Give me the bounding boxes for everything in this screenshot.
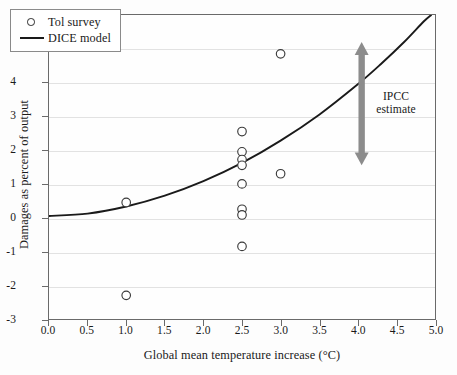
ipcc-estimate-label: IPCC estimate xyxy=(376,90,415,116)
y-axis-tick xyxy=(42,150,48,151)
open-circle-icon xyxy=(18,15,48,29)
y-axis-tick xyxy=(42,286,48,287)
y-axis-tick-label: 0 xyxy=(10,212,16,224)
data-point xyxy=(238,161,247,170)
y-axis-tick-label: 4 xyxy=(10,76,16,88)
data-point xyxy=(122,198,131,207)
ipcc-label-line1: IPCC xyxy=(376,90,415,103)
arrow-head-down-icon xyxy=(355,152,369,165)
data-point xyxy=(238,127,247,136)
legend: Tol survey DICE model xyxy=(10,9,121,52)
x-axis-tick-label: 3.0 xyxy=(273,325,288,337)
x-axis-label: Global mean temperature increase (°C) xyxy=(48,348,436,363)
data-point xyxy=(276,50,285,59)
y-axis-label: Damages as percent of output xyxy=(17,59,32,291)
data-point xyxy=(238,211,247,220)
x-axis-tick-label: 4.5 xyxy=(390,325,405,337)
y-axis-tick xyxy=(42,252,48,253)
ipcc-estimate-arrow xyxy=(355,42,369,165)
y-axis-tick-label: -2 xyxy=(6,280,16,292)
y-axis-tick-label: 2 xyxy=(10,144,16,156)
chart-overlay xyxy=(49,15,435,319)
data-point xyxy=(276,169,285,178)
tol-survey-markers xyxy=(122,50,285,300)
arrow-head-up-icon xyxy=(355,42,369,55)
x-axis-tick-label: 1.0 xyxy=(118,325,133,337)
y-axis-tick-label: 1 xyxy=(10,178,16,190)
legend-item-tol-survey: Tol survey xyxy=(18,14,111,30)
y-axis-tick-label: -3 xyxy=(6,314,16,326)
y-axis-tick xyxy=(42,116,48,117)
x-axis-tick-label: 4.0 xyxy=(351,325,366,337)
y-axis-tick xyxy=(42,218,48,219)
legend-item-dice-model: DICE model xyxy=(18,30,111,46)
y-axis-tick xyxy=(42,184,48,185)
x-axis-tick-label: 3.5 xyxy=(312,325,327,337)
legend-label: DICE model xyxy=(48,31,111,46)
x-axis-tick-label: 2.5 xyxy=(235,325,250,337)
line-icon xyxy=(18,31,48,45)
data-point xyxy=(238,242,247,251)
plot-area xyxy=(48,14,436,320)
data-point xyxy=(238,180,247,189)
x-axis-tick-label: 0.0 xyxy=(41,325,56,337)
x-axis-tick-label: 1.5 xyxy=(157,325,172,337)
data-point xyxy=(122,291,131,300)
y-axis-tick xyxy=(42,82,48,83)
chart-figure: 6543210-1-2-3 0.00.51.01.52.02.53.03.54.… xyxy=(0,0,457,375)
ipcc-label-line2: estimate xyxy=(376,103,415,116)
x-axis-tick-label: 5.0 xyxy=(429,325,444,337)
arrow-shaft xyxy=(358,49,364,158)
legend-label: Tol survey xyxy=(48,15,101,30)
y-axis-tick-label: -1 xyxy=(6,246,16,258)
x-axis-tick-label: 2.0 xyxy=(196,325,211,337)
y-axis-tick-label: 3 xyxy=(10,110,16,122)
x-axis-tick-label: 0.5 xyxy=(79,325,94,337)
